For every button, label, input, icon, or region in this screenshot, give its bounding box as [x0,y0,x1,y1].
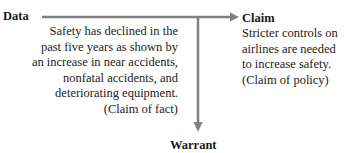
data-line: Safety has declined in the [0,24,178,40]
data-to-claim-arrowhead-icon [230,13,239,22]
data-label: Data [3,9,29,23]
claim-label: Claim [242,11,275,25]
claim-line: (Claim of policy) [242,73,357,89]
claim-line: to increase safety. [242,57,357,73]
claim-text: Stricter controls on airlines are needed… [242,26,357,88]
claim-line: airlines are needed [242,42,357,58]
claim-line: Stricter controls on [242,26,357,42]
data-line: an increase in near accidents, [0,55,178,71]
data-line: past five years as shown by [0,40,178,56]
data-text: Safety has declined in the past five yea… [0,24,178,117]
warrant-arrowhead-icon [194,122,203,132]
warrant-label: Warrant [170,138,217,152]
data-line: nonfatal accidents, and [0,71,178,87]
data-line: deteriorating equipment. [0,86,178,102]
data-line: (Claim of fact) [0,102,178,118]
